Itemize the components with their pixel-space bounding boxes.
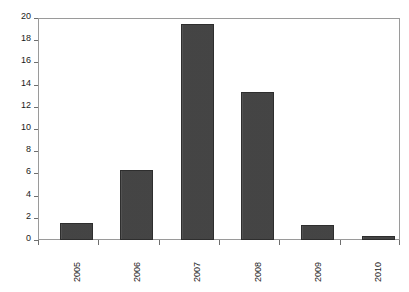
y-axis-tick-label: 12 xyxy=(21,101,31,110)
y-axis-tick-label: 8 xyxy=(26,145,31,154)
y-axis-tick-label: 6 xyxy=(26,167,31,176)
x-axis-tick-label-2006: 2006 xyxy=(133,262,142,282)
y-axis-tick-label: 0 xyxy=(26,234,31,243)
y-axis-tick-label: 10 xyxy=(21,123,31,132)
y-axis: 0 2 4 6 8 10 12 14 xyxy=(0,18,38,241)
x-axis-tick-label-2008: 2008 xyxy=(254,262,263,282)
x-axis-tick-label-2005: 2005 xyxy=(73,262,82,282)
x-axis-tick-mark xyxy=(279,240,280,245)
bar-chart: 0 2 4 6 8 10 12 14 xyxy=(0,0,409,292)
bar-2005 xyxy=(60,223,93,240)
y-axis-tick-label: 2 xyxy=(26,212,31,221)
x-axis-tick-mark xyxy=(38,240,39,245)
x-axis-tick-mark xyxy=(340,240,341,245)
bar-2008 xyxy=(241,92,274,240)
bar-2007 xyxy=(181,24,214,241)
x-axis-tick-label-2007: 2007 xyxy=(193,262,202,282)
x-axis-tick-mark xyxy=(98,240,99,245)
bar-2006 xyxy=(120,170,153,240)
bars-layer xyxy=(38,18,400,240)
y-axis-tick-label: 16 xyxy=(21,56,31,65)
x-axis-tick-mark xyxy=(399,240,400,245)
x-axis: 2005 2006 2007 2008 2009 2010 xyxy=(38,240,400,292)
y-axis-tick-label: 14 xyxy=(21,79,31,88)
x-axis-tick-mark xyxy=(159,240,160,245)
x-axis-tick-mark xyxy=(219,240,220,245)
x-axis-tick-label-2010: 2010 xyxy=(374,262,383,282)
y-axis-tick-label: 20 xyxy=(21,12,31,21)
y-axis-tick-label: 4 xyxy=(26,190,31,199)
y-axis-tick-label: 18 xyxy=(21,34,31,43)
x-axis-tick-label-2009: 2009 xyxy=(314,262,323,282)
bar-2009 xyxy=(301,225,334,241)
